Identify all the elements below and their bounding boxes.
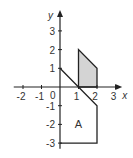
- shaded-polygon: [79, 50, 98, 87]
- origin-label: 0: [50, 90, 56, 101]
- y-tick-label: 2: [49, 45, 55, 56]
- x-tick-label: -1: [35, 91, 44, 102]
- y-tick-label: -3: [46, 138, 55, 149]
- x-tick-label: -2: [17, 91, 26, 102]
- y-tick-label: -2: [46, 119, 55, 130]
- x-axis-label: x: [121, 90, 128, 101]
- axes: [14, 10, 122, 149]
- region-a-label: A: [75, 118, 83, 130]
- y-axis-arrow-icon: [57, 10, 63, 17]
- x-tick-label: 3: [111, 91, 117, 102]
- x-axis-arrow-icon: [115, 84, 122, 90]
- coordinate-plane: -2-1123-3-2-1123 x y 0 A: [0, 0, 133, 158]
- x-tick-label: 2: [92, 91, 98, 102]
- x-tick-label: 1: [74, 91, 80, 102]
- y-axis-label: y: [47, 10, 54, 21]
- y-tick-label: 1: [49, 63, 55, 74]
- y-tick-label: -1: [46, 101, 55, 112]
- y-tick-label: 3: [49, 26, 55, 37]
- shaded-region: [79, 50, 98, 87]
